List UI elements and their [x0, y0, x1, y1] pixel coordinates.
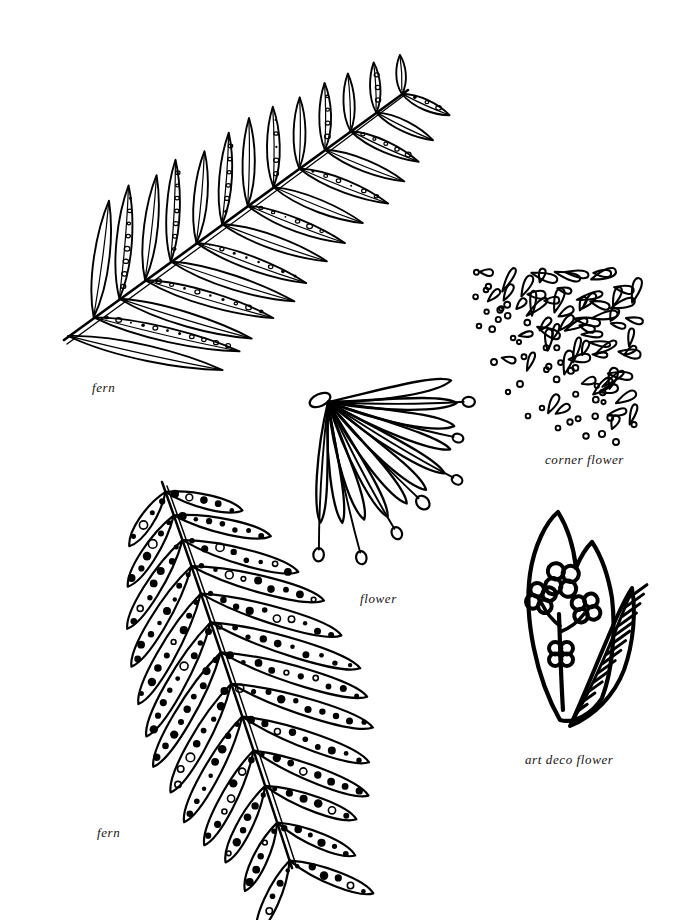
- motif-art-deco-flower: [516, 502, 646, 732]
- fern-bottom-drawing: [44, 472, 354, 892]
- motif-fern-bottom: [44, 472, 354, 892]
- caption-art-deco-flower: art deco flower: [525, 752, 613, 768]
- caption-fern-top: fern: [92, 380, 115, 396]
- caption-fern-bottom: fern: [97, 825, 120, 841]
- motif-fern-top: [28, 34, 418, 374]
- caption-flower: flower: [360, 591, 397, 607]
- illustration-page: fern corner flower flower fern art deco …: [0, 0, 680, 920]
- caption-corner-flower: corner flower: [545, 452, 624, 468]
- fern-top-drawing: [28, 34, 418, 374]
- art-deco-flower-drawing: [516, 502, 646, 732]
